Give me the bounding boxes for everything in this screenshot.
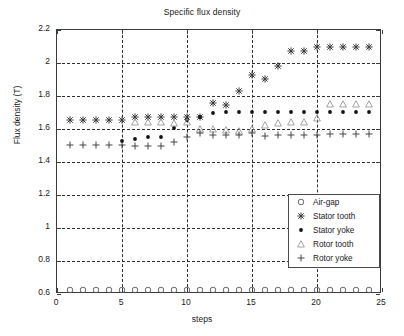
star-icon bbox=[289, 209, 313, 223]
x-tick bbox=[382, 30, 383, 34]
data-point bbox=[66, 116, 74, 124]
data-point bbox=[261, 75, 269, 83]
data-point bbox=[157, 118, 165, 126]
data-point bbox=[105, 116, 113, 124]
data-point bbox=[250, 109, 255, 114]
data-point bbox=[339, 43, 347, 51]
data-point bbox=[274, 131, 282, 139]
data-point bbox=[313, 43, 321, 51]
y-tick bbox=[57, 228, 61, 229]
data-point bbox=[248, 129, 256, 137]
legend: Air-gapStator toothStator yokeRotor toot… bbox=[288, 194, 380, 268]
y-tick bbox=[376, 129, 380, 130]
data-point bbox=[366, 286, 373, 293]
y-tick-label: 1 bbox=[16, 221, 50, 231]
data-point bbox=[365, 100, 373, 108]
data-point bbox=[300, 47, 308, 55]
x-tick-label: 0 bbox=[44, 297, 68, 307]
legend-label: Stator tooth bbox=[313, 212, 355, 221]
chart-title: Specific flux density bbox=[0, 7, 404, 17]
data-point bbox=[313, 131, 321, 139]
data-point bbox=[365, 130, 373, 138]
legend-item: Stator tooth bbox=[289, 209, 379, 223]
legend-item: Air-gap bbox=[289, 195, 379, 209]
data-point bbox=[352, 100, 360, 108]
data-point bbox=[119, 286, 126, 293]
legend-item: Rotor tooth bbox=[289, 237, 379, 251]
data-point bbox=[326, 100, 334, 108]
y-tick bbox=[376, 96, 380, 97]
y-tick bbox=[57, 162, 61, 163]
y-tick bbox=[57, 129, 61, 130]
data-point bbox=[262, 286, 269, 293]
data-point bbox=[118, 116, 126, 124]
gridline-horizontal bbox=[57, 63, 380, 64]
x-tick bbox=[57, 288, 58, 292]
data-point bbox=[326, 43, 334, 51]
circle-icon bbox=[289, 195, 313, 209]
x-tick-label: 25 bbox=[369, 297, 393, 307]
chart-page: Specific flux density Flux density (T) s… bbox=[0, 0, 404, 336]
data-point bbox=[79, 141, 87, 149]
gridline-horizontal bbox=[57, 162, 380, 163]
y-tick-label: 0.6 bbox=[16, 287, 50, 297]
y-tick bbox=[57, 96, 61, 97]
data-point bbox=[183, 118, 191, 126]
data-point bbox=[287, 47, 295, 55]
data-point bbox=[67, 286, 74, 293]
data-point bbox=[287, 131, 295, 139]
data-point bbox=[300, 131, 308, 139]
data-point bbox=[131, 118, 139, 126]
data-point bbox=[326, 130, 334, 138]
data-point bbox=[183, 133, 191, 141]
data-point bbox=[210, 286, 217, 293]
data-point bbox=[209, 131, 217, 139]
data-point bbox=[80, 286, 87, 293]
data-point bbox=[314, 286, 321, 293]
data-point bbox=[144, 118, 152, 126]
y-tick-label: 1.2 bbox=[16, 188, 50, 198]
data-point bbox=[158, 286, 165, 293]
y-tick bbox=[376, 63, 380, 64]
gridline-vertical bbox=[187, 30, 188, 292]
y-tick-label: 0.8 bbox=[16, 254, 50, 264]
data-point bbox=[327, 286, 334, 293]
data-point bbox=[145, 286, 152, 293]
x-tick-label: 15 bbox=[239, 297, 263, 307]
data-point bbox=[301, 286, 308, 293]
x-tick bbox=[187, 30, 188, 34]
data-point bbox=[313, 114, 321, 122]
triangle-icon bbox=[289, 237, 313, 251]
y-tick bbox=[57, 261, 61, 262]
data-point bbox=[132, 286, 139, 293]
data-point bbox=[157, 142, 165, 150]
x-tick bbox=[252, 30, 253, 34]
y-tick bbox=[376, 294, 380, 295]
data-point bbox=[79, 116, 87, 124]
y-axis-label: Flux density (T) bbox=[12, 50, 22, 180]
data-point bbox=[118, 141, 126, 149]
data-point bbox=[365, 43, 373, 51]
data-point bbox=[261, 132, 269, 140]
data-point bbox=[171, 286, 178, 293]
data-point bbox=[353, 286, 360, 293]
x-tick-label: 5 bbox=[109, 297, 133, 307]
data-point bbox=[170, 119, 178, 127]
data-point bbox=[339, 130, 347, 138]
data-point bbox=[170, 138, 178, 146]
data-point bbox=[352, 43, 360, 51]
legend-item: Rotor yoke bbox=[289, 251, 379, 265]
gridline-vertical bbox=[122, 30, 123, 292]
x-tick bbox=[317, 30, 318, 34]
x-axis-label: steps bbox=[0, 314, 404, 324]
data-point bbox=[92, 141, 100, 149]
data-point bbox=[222, 131, 230, 139]
data-point bbox=[211, 110, 216, 115]
legend-label: Stator yoke bbox=[313, 226, 354, 235]
legend-label: Air-gap bbox=[313, 198, 339, 207]
dot-icon bbox=[289, 223, 313, 237]
data-point bbox=[339, 100, 347, 108]
data-point bbox=[144, 142, 152, 150]
legend-label: Rotor tooth bbox=[313, 240, 354, 249]
data-point bbox=[263, 109, 268, 114]
